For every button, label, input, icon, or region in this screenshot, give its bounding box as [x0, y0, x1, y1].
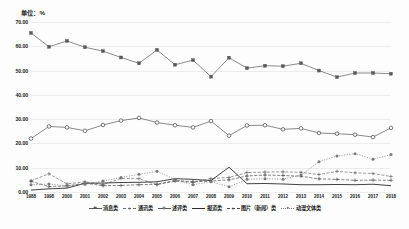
data-point — [389, 126, 393, 130]
data-point — [84, 183, 87, 186]
legend-item-2[interactable]: +通讯类 — [123, 204, 153, 211]
data-point — [245, 174, 249, 178]
data-point — [390, 72, 393, 75]
legend-label: 图片（新闻）类 — [241, 204, 276, 211]
data-point — [372, 158, 375, 161]
data-point — [299, 127, 303, 131]
data-point — [389, 175, 393, 179]
data-point — [137, 177, 141, 181]
data-point — [30, 183, 33, 186]
data-point — [353, 179, 357, 183]
data-point — [245, 124, 249, 128]
data-point — [156, 170, 159, 173]
x-tick-label: 1998 — [44, 194, 54, 199]
data-point — [335, 170, 339, 174]
legend-swatch-icon: + — [123, 205, 136, 211]
legend-item-4[interactable]: 报道类 — [192, 204, 222, 211]
data-point — [264, 177, 267, 180]
x-tick-label: 2004 — [134, 194, 144, 199]
data-point — [102, 50, 105, 53]
data-point — [137, 116, 141, 120]
data-point — [138, 173, 141, 176]
data-point — [354, 72, 357, 75]
legend-swatch-icon — [89, 205, 102, 211]
data-point — [156, 48, 159, 51]
data-point — [102, 180, 105, 183]
unit-label: 单位：% — [21, 8, 45, 17]
data-point — [317, 177, 321, 181]
data-point — [371, 172, 375, 176]
data-point — [282, 65, 285, 68]
data-point — [120, 176, 123, 179]
data-point — [83, 129, 87, 133]
data-point — [174, 63, 177, 66]
chart-legend: 消息类+通讯类述评类报道类+图片（新闻）类动漫文体类 — [0, 204, 409, 211]
legend-label: 动漫文体类 — [296, 204, 321, 211]
data-point — [155, 121, 159, 125]
legend-item-1[interactable]: 消息类 — [89, 204, 119, 211]
x-tick-label: 2001 — [80, 194, 90, 199]
data-point — [210, 75, 213, 78]
series-6 — [30, 152, 393, 188]
data-point — [318, 69, 321, 72]
data-point — [228, 56, 231, 59]
plot-area: 0.0010.0020.0030.0040.0050.0060.0070.00 — [31, 22, 391, 192]
data-point — [192, 183, 195, 186]
data-point — [84, 46, 87, 49]
legend-item-5[interactable]: +图片（新闻）类 — [227, 204, 277, 211]
y-tick-label: 60.00 — [16, 43, 28, 49]
data-point — [209, 119, 213, 123]
data-point — [191, 180, 195, 184]
data-point — [173, 123, 177, 127]
data-point — [120, 56, 123, 59]
x-tick-label: 2010 — [242, 194, 252, 199]
data-point — [48, 182, 51, 185]
x-tick-label: 2003 — [116, 194, 126, 199]
data-point — [300, 62, 303, 65]
x-tick-label: 2017 — [368, 194, 378, 199]
data-point — [317, 173, 321, 177]
series-layer — [31, 22, 391, 192]
data-point — [263, 123, 267, 127]
legend-item-6[interactable]: 动漫文体类 — [281, 204, 321, 211]
data-point — [353, 133, 357, 137]
data-point — [174, 178, 177, 181]
x-tick-label: 2014 — [314, 194, 324, 199]
data-point — [66, 184, 69, 187]
data-point — [317, 131, 321, 135]
data-point — [335, 132, 339, 136]
x-tick-label: 2009 — [224, 194, 234, 199]
data-point — [47, 172, 51, 176]
data-point — [65, 126, 69, 130]
data-point — [372, 72, 375, 75]
legend-swatch-icon: + — [227, 205, 240, 211]
data-point — [227, 134, 231, 138]
data-point — [371, 135, 375, 139]
series-1 — [30, 31, 393, 78]
legend-item-3[interactable]: 述评类 — [158, 204, 188, 211]
x-tick-label: 2015 — [332, 194, 342, 199]
data-point — [336, 76, 339, 79]
legend-swatch-icon — [192, 205, 205, 211]
data-point — [389, 179, 393, 183]
grid-line — [31, 192, 391, 193]
legend-label: 通讯类 — [138, 204, 153, 211]
y-tick-label: 50.00 — [16, 68, 28, 74]
data-point — [245, 171, 249, 175]
x-axis-labels: 1988199820002001200220032004200520062007… — [31, 194, 391, 203]
x-tick-label: 2002 — [98, 194, 108, 199]
data-point — [281, 128, 285, 132]
data-point — [353, 171, 357, 175]
data-point — [119, 184, 123, 188]
data-point — [282, 178, 285, 181]
legend-swatch-icon — [281, 205, 294, 211]
y-tick-label: 20.00 — [16, 140, 28, 146]
data-point — [191, 126, 195, 130]
data-point — [138, 62, 141, 65]
legend-label: 消息类 — [103, 204, 118, 211]
data-point — [354, 152, 357, 155]
legend-label: 述评类 — [172, 204, 187, 211]
data-point — [210, 180, 213, 183]
y-tick-label: 30.00 — [16, 116, 28, 122]
y-tick-label: 70.00 — [16, 19, 28, 25]
